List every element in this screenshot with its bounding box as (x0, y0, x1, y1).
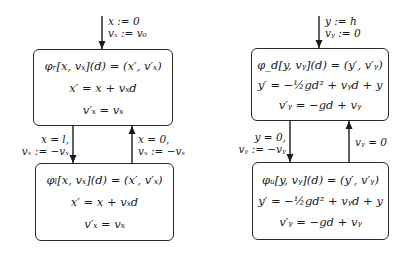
guard-text: x = l, (14, 133, 69, 145)
state-eq-vx: v′ₓ = vₓ (83, 99, 124, 121)
guard-text: vᵧ = 0 (355, 136, 387, 148)
state-eq-y: y′ = −½gd² + vᵧd + y (258, 75, 383, 95)
state-eq-x: x′ = x + vₓd (71, 191, 138, 213)
state-phi-u: φᵤ[y, vᵧ](d) = (y′, v′ᵧ) y′ = −½gd² + vᵧ… (252, 162, 389, 240)
init-x: x := 0 (108, 15, 147, 27)
state-phi-d: φ_d[y, vᵧ](d) = (y′, v′ᵧ) y′ = −½gd² + v… (251, 48, 389, 121)
init-label-right: y := h vᵧ := 0 (325, 15, 361, 39)
reset-text: vₓ := −vₓ (14, 145, 69, 157)
guard-text: y = 0, (228, 131, 286, 143)
state-header: φₗ[x, vₓ](d) = (x′, v′ₓ) (46, 169, 162, 191)
state-header: φ_d[y, vᵧ](d) = (y′, v′ᵧ) (257, 55, 382, 75)
state-header: φᵣ[x, vₓ](d) = (x′, v′ₓ) (44, 55, 161, 77)
state-phi-r: φᵣ[x, vₓ](d) = (x′, v′ₓ) x′ = x + vₓd v′… (33, 49, 173, 126)
state-eq-vy: v′ᵧ = −gd + vᵧ (279, 212, 362, 233)
guard-label-down-right: y = 0, vᵧ := −vᵧ (228, 131, 286, 155)
state-eq-vx: v′ₓ = vₓ (84, 213, 125, 235)
guard-text: x = 0, (138, 133, 185, 145)
init-vx: vₓ := v₀ (108, 27, 147, 39)
reset-text: vᵧ := −vᵧ (228, 143, 286, 155)
state-header: φᵤ[y, vᵧ](d) = (y′, v′ᵧ) (262, 170, 379, 191)
init-label-left: x := 0 vₓ := v₀ (108, 15, 147, 39)
reset-text: vₓ := −vₓ (138, 145, 185, 157)
state-eq-y: y′ = −½gd² + vᵧd + y (258, 191, 383, 212)
state-eq-vy: v′ᵧ = −gd + vᵧ (279, 95, 362, 115)
guard-label-up-left: x = 0, vₓ := −vₓ (138, 133, 185, 157)
init-vy: vᵧ := 0 (325, 27, 361, 39)
state-phi-l: φₗ[x, vₓ](d) = (x′, v′ₓ) x′ = x + vₓd v′… (35, 163, 174, 241)
state-eq-x: x′ = x + vₓd (69, 77, 136, 99)
guard-label-down-left: x = l, vₓ := −vₓ (14, 133, 69, 157)
guard-label-up-right: vᵧ = 0 (355, 136, 387, 148)
init-y: y := h (325, 15, 361, 27)
